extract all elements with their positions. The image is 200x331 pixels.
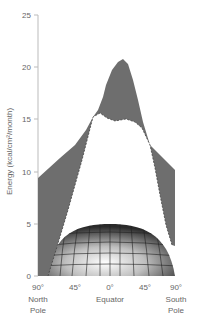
xtick-90s: 90° xyxy=(170,283,182,292)
xtick-0: 0° xyxy=(106,283,114,292)
north-pole-label: Pole xyxy=(30,306,47,315)
xtick-45n: 45° xyxy=(69,283,81,292)
x-ticks: 90° 45° 0° 45° 90° North Pole Equator So… xyxy=(28,283,186,315)
energy-chart: 0 5 10 15 20 25 Energy (kcal/cm²/month) xyxy=(0,0,200,331)
south-pole-label: Pole xyxy=(168,306,185,315)
ytick-10: 10 xyxy=(22,168,31,177)
ytick-20: 20 xyxy=(22,63,31,72)
xtick-90n: 90° xyxy=(32,283,44,292)
xtick-45s: 45° xyxy=(139,283,151,292)
y-axis-label: Energy (kcal/cm²/month) xyxy=(5,108,14,195)
ytick-5: 5 xyxy=(27,220,32,229)
north-label: North xyxy=(28,295,48,304)
ytick-25: 25 xyxy=(22,11,31,20)
ytick-0: 0 xyxy=(27,272,32,281)
equator-label: Equator xyxy=(96,295,124,304)
ytick-15: 15 xyxy=(22,115,31,124)
south-label: South xyxy=(166,295,187,304)
y-ticks: 0 5 10 15 20 25 xyxy=(22,11,38,281)
